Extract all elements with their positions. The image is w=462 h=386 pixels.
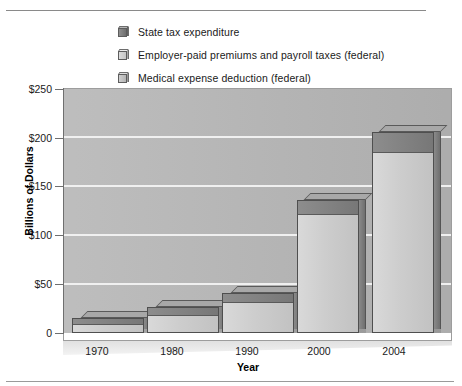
swatch-side-face (127, 50, 129, 59)
legend-item-label: State tax expenditure (138, 26, 239, 38)
segment-state-tax-expenditure (373, 133, 433, 153)
swatch-front-face (118, 28, 127, 37)
y-tick-250 (55, 89, 64, 90)
y-tick-0 (55, 333, 64, 334)
legend-item-medical-expense-deduction: Medical expense deduction (federal) (118, 66, 448, 89)
segment-federal-components (298, 215, 358, 332)
x-axis-label-1980: 1980 (142, 345, 202, 357)
legend-item-state-tax: State tax expenditure (118, 20, 448, 43)
bar-1970[interactable] (72, 318, 144, 333)
bar-side-face (359, 196, 366, 329)
x-axis-label-2004: 2004 (364, 345, 424, 357)
x-axis-label-1970: 1970 (67, 345, 127, 357)
bar-1990[interactable] (222, 293, 294, 333)
segment-federal-components (148, 316, 218, 332)
swatch-front-face (118, 74, 127, 83)
bar-side-face (434, 128, 441, 329)
y-tick-200 (55, 138, 64, 139)
bar-top-cap (379, 125, 448, 132)
top-divider-rule (6, 10, 426, 11)
y-tick-50 (55, 284, 64, 285)
y-axis-line (63, 88, 64, 334)
segment-state-tax-expenditure (223, 294, 293, 303)
legend-swatch-dark-gray-3d-box-icon (118, 26, 129, 37)
y-axis-label-0: 0 (46, 327, 52, 339)
bar-2000[interactable] (297, 200, 359, 333)
segment-federal-components (73, 325, 143, 332)
legend-swatch-mid-gray-3d-box-icon (118, 72, 129, 83)
swatch-front-face (118, 51, 127, 60)
legend-swatch-light-gray-3d-box-icon (118, 49, 129, 60)
bar-1980[interactable] (147, 307, 219, 333)
bar-stack (72, 318, 144, 333)
y-tick-100 (55, 235, 64, 236)
bar-stack (147, 307, 219, 333)
legend-item-label: Employer-paid premiums and payroll taxes… (138, 49, 384, 61)
swatch-side-face (127, 27, 129, 36)
segment-state-tax-expenditure (148, 308, 218, 316)
chart-legend: State tax expenditure Employer-paid prem… (118, 20, 448, 89)
bar-2004[interactable] (372, 132, 434, 333)
plot-area (64, 89, 451, 333)
bar-stack (222, 293, 294, 333)
bar-stack (372, 132, 434, 333)
y-tick-150 (55, 186, 64, 187)
segment-federal-components (373, 153, 433, 332)
y-axis-title: Billions of Dollars (23, 126, 35, 256)
bar-top-cap (304, 193, 373, 200)
y-axis-label-50: $50 (34, 278, 52, 290)
x-axis-label-2000: 2000 (289, 345, 349, 357)
y-axis-label-250: $250 (29, 83, 52, 95)
bar-stack (297, 200, 359, 333)
swatch-side-face (127, 73, 129, 82)
x-axis-label-1990: 1990 (217, 345, 277, 357)
segment-federal-components (223, 303, 293, 332)
legend-item-label: Medical expense deduction (federal) (138, 72, 311, 84)
segment-state-tax-expenditure (298, 201, 358, 215)
bottom-divider-rule (6, 381, 454, 382)
x-axis-title: Year (0, 361, 462, 373)
legend-item-employer-paid-premiums: Employer-paid premiums and payroll taxes… (118, 43, 448, 66)
